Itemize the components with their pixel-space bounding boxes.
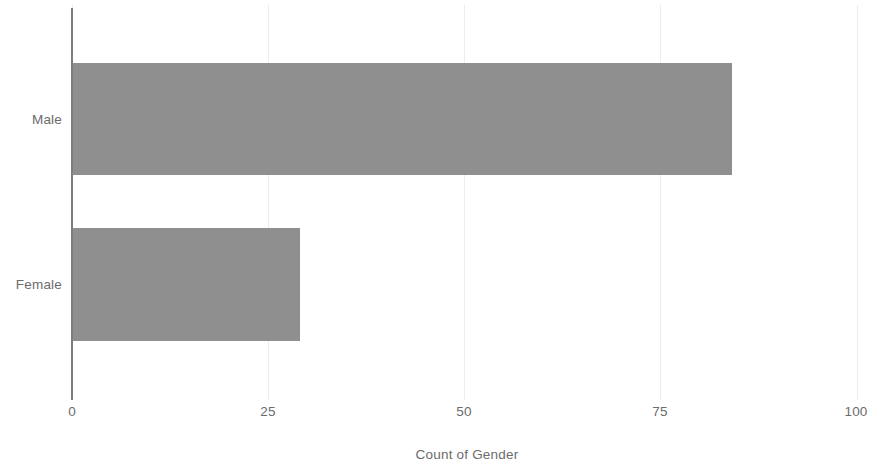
bar-chart-count-of-gender: Male Female 0 25 50 75 100 Count of Gend… — [0, 0, 878, 474]
y-tick-label-male: Male — [0, 112, 62, 127]
x-tick-label-100: 100 — [844, 404, 867, 419]
bar-male[interactable] — [72, 63, 732, 175]
bar-female[interactable] — [72, 228, 300, 341]
x-tick-label-0: 0 — [68, 404, 76, 419]
y-tick-label-female: Female — [0, 277, 62, 292]
y-axis-line — [71, 8, 73, 400]
x-tick-label-50: 50 — [456, 404, 471, 419]
y-axis-labels: Male Female — [0, 0, 62, 474]
x-tick-label-75: 75 — [652, 404, 667, 419]
gridline-100 — [857, 5, 858, 400]
x-axis-title: Count of Gender — [0, 447, 878, 462]
x-tick-label-25: 25 — [260, 404, 275, 419]
x-axis-title-text: Count of Gender — [416, 447, 519, 462]
plot-area — [72, 5, 858, 400]
